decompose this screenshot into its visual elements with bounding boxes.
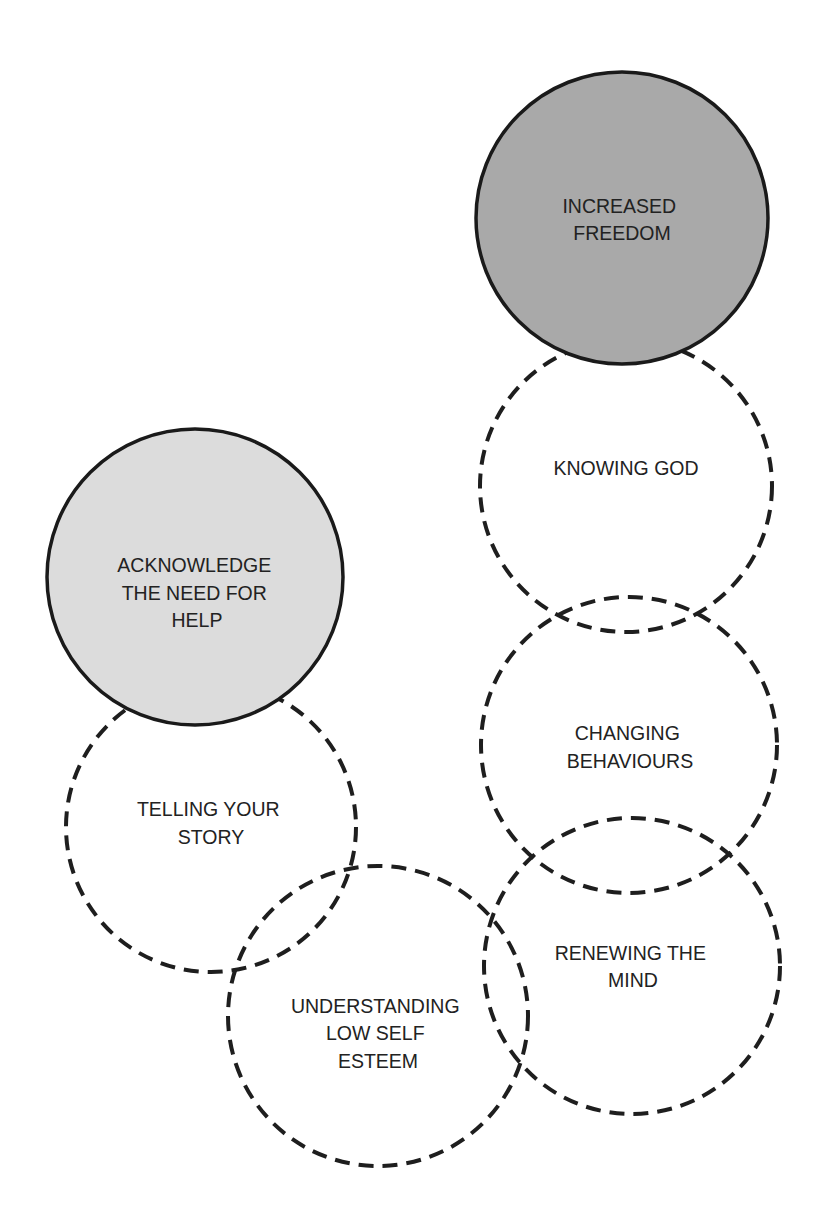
circle-changing-behaviours <box>481 597 777 893</box>
circle-renewing-the-mind <box>484 818 780 1114</box>
label-line: BEHAVIOURS <box>567 750 693 772</box>
label-line: KNOWING GOD <box>553 457 698 479</box>
label-line: ESTEEM <box>338 1050 418 1072</box>
label-changing-behaviours: CHANGING BEHAVIOURS <box>567 722 693 772</box>
label-line: STORY <box>178 826 244 848</box>
label-understanding-low-self-esteem: UNDERSTANDING LOW SELF ESTEEM <box>291 995 465 1072</box>
label-line: RENEWING THE <box>555 942 706 964</box>
pathway-diagram: INCREASED FREEDOM KNOWING GOD CHANGING B… <box>0 0 817 1228</box>
label-line: INCREASED <box>562 195 676 217</box>
label-line: CHANGING <box>575 722 680 744</box>
label-line: FREEDOM <box>573 222 671 244</box>
label-line: THE NEED FOR <box>122 582 267 604</box>
label-line: HELP <box>172 609 223 631</box>
circle-knowing-god <box>480 340 772 632</box>
circle-acknowledge-the-need-for-help <box>47 429 343 725</box>
label-renewing-the-mind: RENEWING THE MIND <box>555 942 712 991</box>
label-line: LOW SELF <box>326 1022 425 1044</box>
label-line: TELLING YOUR <box>137 798 280 820</box>
label-line: MIND <box>608 969 658 991</box>
label-line: ACKNOWLEDGE <box>117 554 271 576</box>
label-knowing-god: KNOWING GOD <box>553 457 698 479</box>
circle-increased-freedom <box>476 72 768 364</box>
label-line: UNDERSTANDING <box>291 995 460 1017</box>
label-telling-your-story: TELLING YOUR STORY <box>137 798 285 848</box>
